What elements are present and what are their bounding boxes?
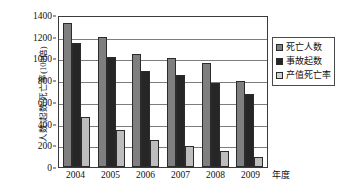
y-axis-tick-mark bbox=[53, 81, 56, 82]
bar-chart-figure: 人数/起数/死亡率(100倍) 140012001000800600400200… bbox=[0, 0, 358, 195]
legend-swatch-icon bbox=[276, 44, 283, 51]
legend-swatch-icon bbox=[276, 58, 283, 65]
legend-item-label: 事故起数 bbox=[286, 56, 322, 66]
y-axis-tick-mark bbox=[53, 146, 56, 147]
y-axis-tick-label: 1200 bbox=[33, 33, 52, 43]
bar bbox=[150, 140, 159, 167]
bar bbox=[220, 151, 229, 167]
bar bbox=[141, 71, 150, 167]
y-axis-tick-mark bbox=[53, 59, 56, 60]
x-axis-title: 年度 bbox=[272, 170, 290, 181]
y-axis-tick-mark bbox=[53, 37, 56, 38]
y-axis-tick-labels: 1400120010008006004002000 bbox=[0, 16, 56, 168]
bar bbox=[254, 157, 263, 167]
bar-group bbox=[59, 17, 94, 167]
bar bbox=[245, 94, 254, 167]
y-axis-tick-mark bbox=[53, 124, 56, 125]
bar bbox=[236, 81, 245, 167]
bar bbox=[185, 146, 194, 167]
y-axis-tick-mark bbox=[53, 16, 56, 17]
y-axis-tick-label: 200 bbox=[38, 141, 52, 151]
bar bbox=[211, 83, 220, 167]
bar-group bbox=[128, 17, 163, 167]
bar-group bbox=[94, 17, 129, 167]
y-axis-tick-mark bbox=[53, 102, 56, 103]
x-axis-tick-label: 2009 bbox=[233, 170, 268, 181]
legend-swatch-icon bbox=[276, 72, 283, 79]
y-axis-tick-label: 400 bbox=[38, 120, 52, 130]
x-axis-tick-label: 2004 bbox=[58, 170, 93, 181]
plot-area bbox=[58, 16, 268, 168]
bar bbox=[107, 57, 116, 167]
y-axis-tick-label: 600 bbox=[38, 98, 52, 108]
y-axis-tick-mark bbox=[53, 168, 56, 169]
bar bbox=[72, 43, 81, 167]
bar bbox=[132, 54, 141, 167]
legend-item-label: 死亡人数 bbox=[286, 42, 322, 52]
legend-item[interactable]: 产值死亡率 bbox=[276, 68, 331, 82]
y-axis-tick-label: 1000 bbox=[33, 54, 52, 64]
bar bbox=[116, 130, 125, 167]
bar bbox=[98, 37, 107, 167]
y-axis-tick-label: 1400 bbox=[33, 11, 52, 21]
bar bbox=[176, 75, 185, 167]
x-axis-tick-label: 2007 bbox=[163, 170, 198, 181]
x-axis-tick-labels: 200420052006200720082009 bbox=[58, 170, 268, 181]
bars-layer bbox=[59, 17, 267, 167]
bar bbox=[81, 117, 90, 167]
bar bbox=[202, 63, 211, 167]
bar-group bbox=[232, 17, 267, 167]
legend-item[interactable]: 事故起数 bbox=[276, 54, 331, 68]
y-axis-tick-label: 800 bbox=[38, 76, 52, 86]
bar-group bbox=[198, 17, 233, 167]
y-axis-tick-label: 0 bbox=[47, 163, 52, 173]
legend-item[interactable]: 死亡人数 bbox=[276, 40, 331, 54]
x-axis-tick-label: 2008 bbox=[198, 170, 233, 181]
x-axis-tick-label: 2006 bbox=[128, 170, 163, 181]
chart-legend: 死亡人数事故起数产值死亡率 bbox=[272, 37, 335, 86]
bar bbox=[63, 23, 72, 167]
bar bbox=[167, 58, 176, 167]
legend-item-label: 产值死亡率 bbox=[286, 70, 331, 80]
bar-group bbox=[163, 17, 198, 167]
x-axis-tick-label: 2005 bbox=[93, 170, 128, 181]
